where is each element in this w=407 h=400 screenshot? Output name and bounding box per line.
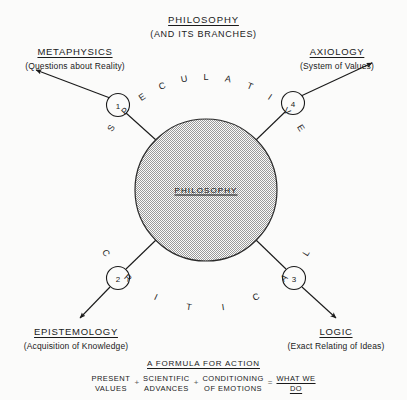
arc-letter: I <box>221 302 225 312</box>
formula-term-1: PRESENT VALUES <box>91 374 130 394</box>
formula-operator-3: = <box>268 374 273 387</box>
arc-letter: C <box>100 247 112 258</box>
formula-term-3-line2: OF EMOTIONS <box>202 384 263 394</box>
arc-letter: R <box>122 273 133 285</box>
formula-term-2-line1: SCIENTIFIC <box>143 374 190 384</box>
formula-operator-2: + <box>194 374 199 387</box>
formula-term-1-line2: VALUES <box>91 384 130 394</box>
arc-letter: I <box>153 292 159 302</box>
arc-word-critical: CRITICAL <box>0 0 407 400</box>
formula-result-line2: DO <box>276 384 315 394</box>
formula-term-2-line2: ADVANCES <box>143 384 190 394</box>
arc-letter: C <box>251 291 261 303</box>
formula-term-2: SCIENTIFIC ADVANCES <box>143 374 190 394</box>
formula-title: A FORMULA FOR ACTION <box>147 359 260 368</box>
formula-term-3-line1: CONDITIONING <box>202 374 263 384</box>
formula-term-3: CONDITIONING OF EMOTIONS <box>202 374 263 394</box>
formula-result-line1: WHAT WE <box>276 374 315 384</box>
formula-block: A FORMULA FOR ACTION PRESENT VALUES + SC… <box>0 352 407 394</box>
formula-operator-1: + <box>134 374 139 387</box>
formula-row: PRESENT VALUES + SCIENTIFIC ADVANCES + C… <box>0 374 407 394</box>
arc-letter: T <box>186 301 193 312</box>
formula-term-1-line1: PRESENT <box>91 374 130 384</box>
arc-letter: L <box>300 248 311 258</box>
formula-result: WHAT WE DO <box>276 374 315 394</box>
diagram-canvas: 1 4 2 3 PHILOSOPHY PHILOSOPHY (AND ITS B… <box>0 0 407 400</box>
arc-letter: A <box>279 273 290 284</box>
